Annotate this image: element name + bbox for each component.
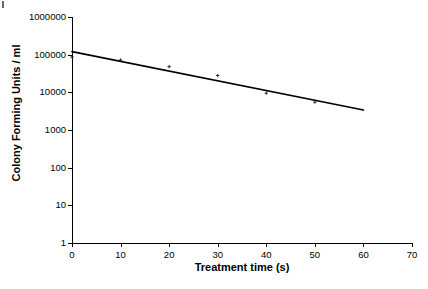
y-tick-label: 1 (61, 238, 66, 248)
data-point-marker (265, 91, 268, 94)
data-point-marker (167, 65, 170, 68)
data-markers-group (70, 55, 316, 104)
x-tick-label: 70 (407, 250, 418, 260)
data-point-marker (70, 55, 73, 58)
y-tick-label: 10 (55, 201, 66, 211)
y-tick-label: 10000 (40, 88, 66, 98)
corner-artifact (2, 1, 4, 8)
y-tick-label: 1000 (45, 125, 66, 135)
x-tick-label: 20 (164, 250, 175, 260)
data-series-layer (72, 17, 413, 244)
data-point-marker (216, 74, 219, 77)
trend-line-group (72, 52, 363, 110)
y-axis-title: Colony Forming Units / ml (8, 0, 25, 226)
chart-figure: Colony Forming Units / ml Treatment time… (0, 0, 428, 289)
x-tick-label: 60 (358, 250, 369, 260)
x-tick-label: 50 (310, 250, 321, 260)
x-tick-label: 30 (212, 250, 223, 260)
x-tick-label: 10 (115, 250, 126, 260)
y-tick-label: 100 (50, 163, 66, 173)
x-tick-label: 40 (261, 250, 272, 260)
trend-line (72, 52, 363, 110)
x-axis-title: Treatment time (s) (72, 261, 412, 274)
y-tick-label: 100000 (34, 50, 66, 60)
x-tick-label: 0 (69, 250, 74, 260)
y-tick-label: 1000000 (29, 12, 66, 22)
plot-area: 1101001000100001000001000000 01020304050… (72, 17, 412, 243)
